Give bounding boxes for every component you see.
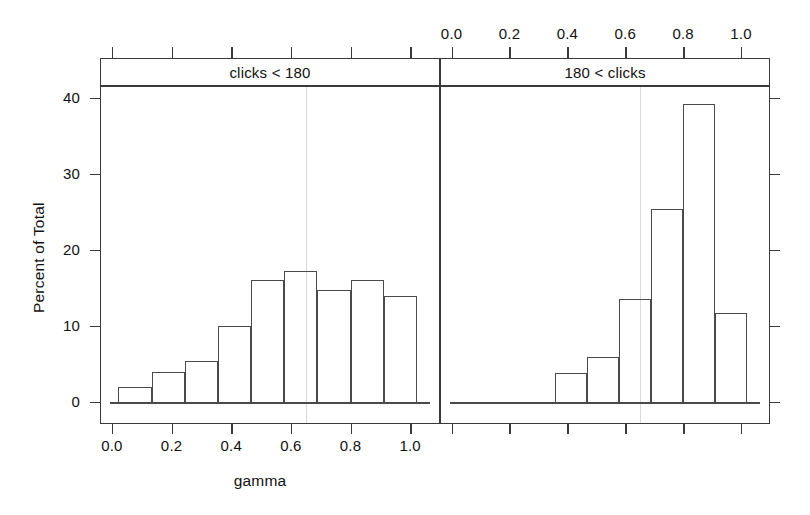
y-axis-tick-label: 10 bbox=[46, 317, 80, 334]
histogram-bar bbox=[555, 373, 587, 402]
histogram-bar bbox=[351, 280, 384, 402]
y-axis-tick-mark-mirrored bbox=[770, 402, 780, 403]
panel-strip-right-label: 180 < clicks bbox=[564, 64, 645, 81]
y-axis-tick-mark-mirrored bbox=[770, 174, 780, 175]
panel-strip-left-label: clicks < 180 bbox=[229, 64, 310, 81]
histogram-bar bbox=[587, 357, 619, 402]
top-axis-tick-mark-left-panel bbox=[172, 47, 173, 58]
x-axis-tick-mark-right-panel bbox=[683, 424, 684, 434]
histogram-bar bbox=[651, 209, 683, 402]
x-axis-tick-label: 0.4 bbox=[211, 437, 251, 454]
x-axis-tick-mark bbox=[231, 424, 232, 434]
top-axis-tick-mark bbox=[567, 47, 568, 58]
x-axis-tick-mark-right-panel bbox=[452, 424, 453, 434]
x-axis-tick-mark-right-panel bbox=[509, 424, 510, 434]
histogram-bar bbox=[715, 313, 747, 402]
top-axis-tick-mark bbox=[683, 47, 684, 58]
y-axis-tick-label: 40 bbox=[46, 89, 80, 106]
histogram-bar bbox=[384, 296, 417, 402]
y-axis-tick-label: 30 bbox=[46, 165, 80, 182]
chart-canvas: 0.00.20.40.60.81.0 clicks < 180 180 < cl… bbox=[0, 0, 810, 515]
top-axis-tick-mark-left-panel bbox=[112, 47, 113, 58]
x-axis-title: gamma bbox=[0, 472, 520, 490]
top-axis-tick-mark-left-panel bbox=[410, 47, 411, 58]
x-axis-tick-label: 0.8 bbox=[331, 437, 371, 454]
top-axis-tick-label: 0.8 bbox=[663, 25, 703, 42]
x-axis-tick-mark bbox=[112, 424, 113, 434]
y-axis-tick-mark bbox=[90, 98, 100, 99]
histogram-bar bbox=[317, 290, 350, 402]
y-axis-tick-mark bbox=[90, 326, 100, 327]
y-axis-tick-mark-mirrored bbox=[770, 98, 780, 99]
x-axis-tick-mark bbox=[172, 424, 173, 434]
top-axis-tick-label: 0.0 bbox=[432, 25, 472, 42]
y-axis-tick-mark-mirrored bbox=[770, 250, 780, 251]
top-axis-tick-label: 0.6 bbox=[605, 25, 645, 42]
histogram-bar bbox=[251, 280, 284, 402]
top-axis-tick-mark bbox=[625, 47, 626, 58]
top-axis-tick-label: 0.2 bbox=[489, 25, 529, 42]
y-axis-tick-label: 0 bbox=[46, 393, 80, 410]
top-axis-tick-mark-left-panel bbox=[351, 47, 352, 58]
histogram-bar bbox=[118, 387, 151, 402]
y-axis-tick-label: 20 bbox=[46, 241, 80, 258]
top-axis-tick-label: 0.4 bbox=[547, 25, 587, 42]
y-axis-title: Percent of Total bbox=[30, 202, 48, 313]
x-axis-tick-label: 0.6 bbox=[271, 437, 311, 454]
x-axis-tick-label: 0.2 bbox=[152, 437, 192, 454]
panel-strip-right: 180 < clicks bbox=[440, 58, 770, 86]
x-axis-tick-mark-right-panel bbox=[741, 424, 742, 434]
histogram-bar bbox=[619, 299, 651, 402]
panel-strip-left: clicks < 180 bbox=[100, 58, 440, 86]
top-axis-tick-mark bbox=[741, 47, 742, 58]
top-axis-tick-mark-left-panel bbox=[231, 47, 232, 58]
top-axis-tick-label: 1.0 bbox=[721, 25, 761, 42]
histogram-bar bbox=[152, 372, 185, 402]
x-axis-tick-mark bbox=[351, 424, 352, 434]
x-axis-tick-mark bbox=[291, 424, 292, 434]
histogram-bar bbox=[185, 361, 218, 402]
x-axis-tick-mark-right-panel bbox=[625, 424, 626, 434]
x-axis-tick-mark-right-panel bbox=[567, 424, 568, 434]
y-axis-tick-mark bbox=[90, 174, 100, 175]
baseline-left-panel bbox=[110, 402, 430, 404]
histogram-bar bbox=[284, 271, 317, 402]
x-axis-tick-mark bbox=[410, 424, 411, 434]
histogram-bar bbox=[683, 104, 715, 402]
top-axis-tick-mark bbox=[509, 47, 510, 58]
y-axis-tick-mark bbox=[90, 250, 100, 251]
baseline-right-panel bbox=[450, 402, 760, 404]
top-axis-tick-mark-left-panel bbox=[291, 47, 292, 58]
histogram-bar bbox=[218, 326, 251, 402]
x-axis-tick-label: 0.0 bbox=[92, 437, 132, 454]
top-axis-tick-mark bbox=[452, 47, 453, 58]
y-axis-tick-mark-mirrored bbox=[770, 326, 780, 327]
y-axis-tick-mark bbox=[90, 402, 100, 403]
x-axis-tick-label: 1.0 bbox=[390, 437, 430, 454]
